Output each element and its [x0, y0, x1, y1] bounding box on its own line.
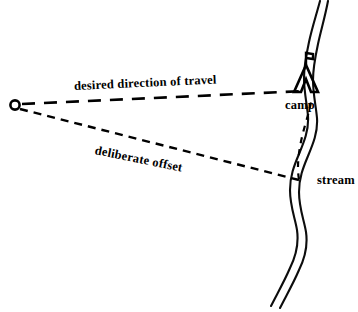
- start-point-circle: [10, 100, 19, 109]
- label-stream: stream: [317, 174, 355, 187]
- diagram-vector-layer: [0, 0, 358, 312]
- label-camp: camp: [285, 99, 315, 112]
- desired-direction-dashed-line: [22, 91, 305, 104]
- diagram-canvas: desired direction of travel deliberate o…: [0, 0, 358, 312]
- stream-bank-right: [280, 1, 328, 308]
- stream-bank-left: [271, 1, 320, 306]
- tent-flag-icon: [306, 53, 313, 65]
